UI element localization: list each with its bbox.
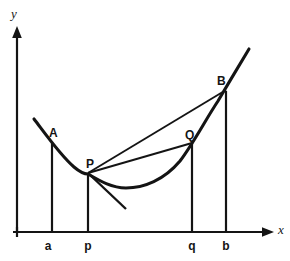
- y-axis-arrowhead: [12, 26, 22, 38]
- geometry-figure: y x A P Q B: [0, 0, 290, 261]
- point-label-A: A: [49, 126, 58, 140]
- tick-label-b: b: [222, 239, 229, 253]
- chord-p-q-line: [88, 143, 192, 173]
- x-axis-label: x: [277, 222, 284, 237]
- y-axis-label: y: [9, 6, 17, 21]
- tick-label-q: q: [188, 239, 195, 253]
- figure-container: y x A P Q B: [0, 0, 290, 261]
- x-axis-arrowhead: [262, 227, 274, 237]
- tick-label-a: a: [45, 239, 52, 253]
- x-axis-group: x: [13, 222, 284, 237]
- secant-lines-group: [88, 90, 226, 209]
- tick-label-p: p: [84, 239, 91, 253]
- chord-p-b-line: [88, 90, 226, 173]
- function-curve-group: [34, 49, 249, 188]
- point-label-B: B: [217, 74, 226, 88]
- ordinates-group: [52, 91, 226, 232]
- point-labels-group: A P Q B: [49, 74, 226, 171]
- point-label-Q: Q: [185, 128, 194, 142]
- y-axis-group: y: [9, 6, 22, 232]
- convex-curve: [34, 49, 249, 188]
- point-label-P: P: [86, 157, 94, 171]
- tick-labels-group: a p q b: [45, 239, 230, 253]
